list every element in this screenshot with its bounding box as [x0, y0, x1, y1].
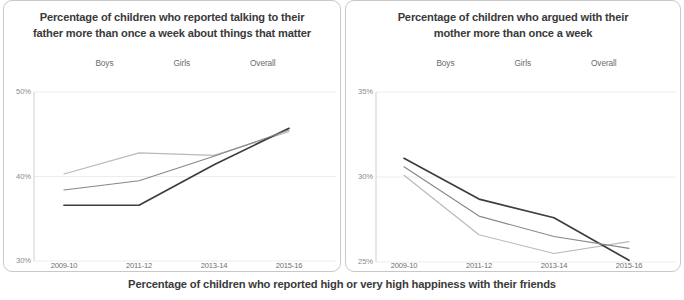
figure-caption: Percentage of children who reported high…	[0, 278, 684, 290]
xtick-father-1: 2011-12	[114, 261, 164, 270]
chart-panel-mother: Percentage of children who argued with t…	[345, 0, 681, 272]
ytick-mother-1: 30%	[347, 172, 373, 181]
ytick-father-1: 40%	[5, 172, 31, 181]
chart-panel-father: Percentage of children who reported talk…	[3, 0, 341, 272]
xtick-mother-2: 2013-14	[529, 261, 579, 270]
plot-svg-father	[4, 1, 342, 273]
series-line-boys	[64, 132, 289, 174]
figure-root: Percentage of children who reported talk…	[0, 0, 684, 300]
plot-area-father	[4, 1, 340, 271]
xtick-mother-1: 2011-12	[454, 261, 504, 270]
chart-panels: Percentage of children who reported talk…	[0, 0, 684, 272]
xtick-mother-0: 2009-10	[379, 261, 429, 270]
ytick-father-2: 50%	[5, 87, 31, 96]
series-line-overall	[64, 130, 289, 190]
ytick-mother-0: 25%	[347, 257, 373, 266]
xtick-father-2: 2013-14	[189, 261, 239, 270]
xtick-father-3: 2015-16	[264, 261, 314, 270]
series-line-girls	[64, 128, 289, 205]
xtick-mother-3: 2015-16	[604, 261, 654, 270]
plot-area-mother	[346, 1, 680, 271]
series-line-girls	[404, 158, 629, 260]
xtick-father-0: 2009-10	[39, 261, 89, 270]
ytick-mother-2: 35%	[347, 87, 373, 96]
ytick-father-0: 30%	[5, 256, 31, 265]
plot-svg-mother	[346, 1, 682, 273]
